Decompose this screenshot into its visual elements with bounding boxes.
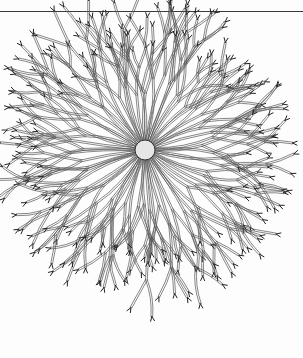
central-body bbox=[135, 140, 155, 160]
illustration-page bbox=[0, 0, 303, 358]
radiating-organism-illustration bbox=[0, 0, 303, 358]
